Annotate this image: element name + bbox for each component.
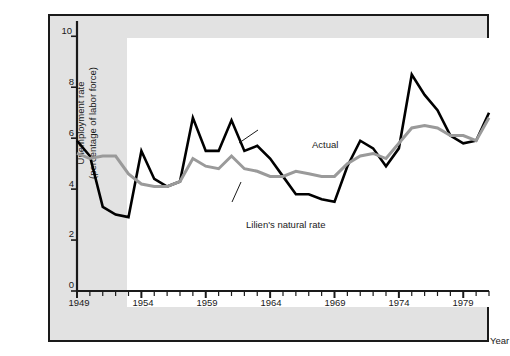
y-axis-label-line2: (percentage of labor force) — [87, 67, 98, 179]
y-tick-label-2: 2 — [54, 229, 74, 239]
x-tick-label-1979: 1979 — [443, 298, 483, 308]
x-tick-label-1959: 1959 — [187, 298, 227, 308]
y-tick-label-8: 8 — [54, 77, 74, 87]
y-tick-label-4: 4 — [54, 179, 74, 189]
y-tick-label-10: 10 — [52, 26, 72, 36]
y-tick-label-0: 0 — [54, 280, 74, 290]
plot-area — [127, 38, 510, 307]
figure-container: Unemployment rate (percentage of labor f… — [0, 0, 510, 356]
x-tick-label-1949: 1949 — [59, 298, 99, 308]
chart-frame: Unemployment rate (percentage of labor f… — [48, 14, 489, 342]
x-axis-label: Year — [490, 335, 509, 346]
y-axis-label-line1: Unemployment rate — [75, 82, 86, 165]
y-tick-label-6: 6 — [54, 128, 74, 138]
x-tick-label-1954: 1954 — [123, 298, 163, 308]
x-tick-label-1974: 1974 — [379, 298, 419, 308]
y-axis-label: Unemployment rate (percentage of labor f… — [75, 43, 105, 203]
x-tick-label-1964: 1964 — [251, 298, 291, 308]
x-tick-label-1969: 1969 — [315, 298, 355, 308]
annotation-lilien-natural-rate: Lilien's natural rate — [246, 219, 325, 230]
annotation-actual: Actual — [312, 139, 338, 150]
